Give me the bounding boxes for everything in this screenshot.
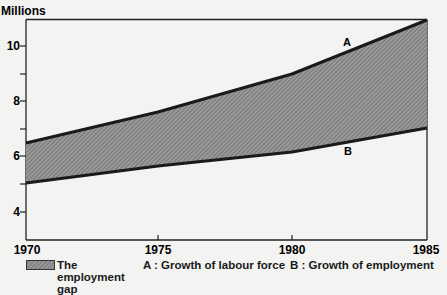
legend: The employment gap A : Growth of labour … bbox=[26, 259, 447, 289]
y-tick-6: 6 bbox=[13, 149, 20, 163]
x-tick-1980: 1980 bbox=[279, 243, 306, 257]
y-axis-label: Millions bbox=[1, 4, 46, 18]
y-tick-10: 10 bbox=[7, 39, 21, 53]
legend-gap-label: The employment gap bbox=[57, 259, 137, 295]
x-tick-1970: 1970 bbox=[14, 243, 41, 257]
y-tick-8: 8 bbox=[13, 94, 20, 108]
line-b-label: B bbox=[344, 145, 352, 157]
x-tick-1985: 1985 bbox=[413, 243, 440, 257]
legend-b-label: B : Growth of employment bbox=[290, 259, 434, 271]
x-tick-1975: 1975 bbox=[145, 243, 172, 257]
legend-a-label: A : Growth of labour force bbox=[143, 259, 285, 271]
y-tick-4: 4 bbox=[13, 205, 20, 219]
legend-gap-swatch bbox=[26, 260, 55, 272]
x-axis-ticks bbox=[158, 235, 292, 240]
line-a-label: A bbox=[343, 36, 351, 48]
y-axis-ticks bbox=[20, 46, 26, 212]
